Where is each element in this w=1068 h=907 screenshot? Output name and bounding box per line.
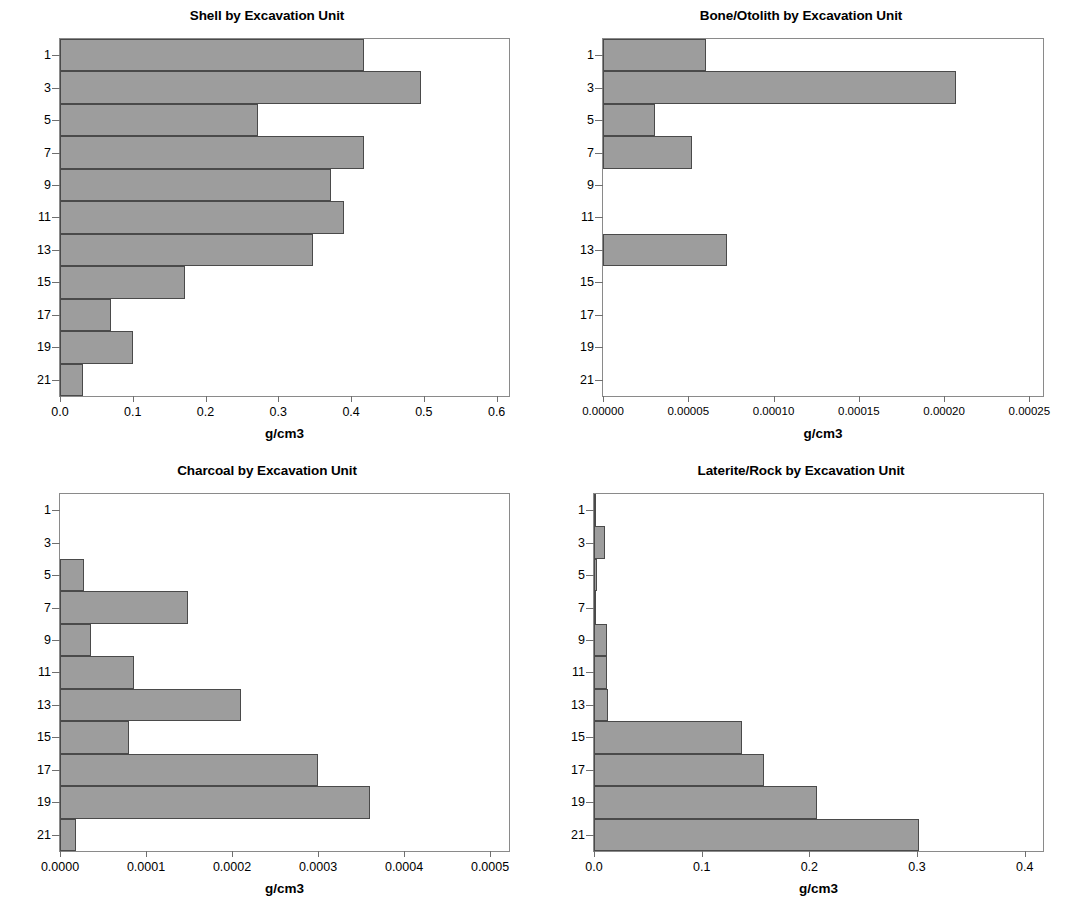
y-tick-mark [586,608,594,609]
y-tick-label: 7 [44,146,51,160]
x-tick-mark [774,396,775,402]
x-tick-label: 0.0 [51,405,68,419]
chart-panel-charcoal: Charcoal by Excavation UnitExcavation Un… [0,455,534,907]
bar [594,624,607,656]
x-tick-label: 0.00005 [667,405,709,417]
y-tick-label: 5 [44,113,51,127]
bar [60,754,318,786]
y-tick-mark [52,737,60,738]
y-tick-mark [595,380,603,381]
y-tick-label: 15 [37,730,51,744]
x-tick-label: 0.2 [197,405,214,419]
y-tick-mark [52,770,60,771]
y-tick-label: 5 [587,113,594,127]
bar [60,104,258,136]
x-tick-mark [490,851,491,857]
bar-slot: 7 [594,591,1043,623]
figure-grid: Shell by Excavation UnitExcavation Unit1… [0,0,1068,907]
bar-slot: 13 [603,234,1043,266]
bar [60,819,76,851]
bar-slot: 15 [60,266,509,298]
y-tick-label: 9 [578,633,585,647]
x-tick-mark [702,851,703,857]
bar-slot: 21 [603,364,1043,396]
x-tick-label: 0.0 [585,860,602,874]
bar [594,754,764,786]
bar-slot: 9 [594,624,1043,656]
bar-slot: 7 [603,136,1043,168]
y-tick-label: 21 [37,828,51,842]
y-tick-mark [52,380,60,381]
bar-slot: 15 [594,721,1043,753]
bar-slot: 21 [594,819,1043,851]
y-tick-label: 5 [578,568,585,582]
bar-slot: 3 [603,71,1043,103]
y-tick-mark [595,185,603,186]
bar [60,591,188,623]
y-tick-mark [52,705,60,706]
y-tick-mark [595,217,603,218]
y-tick-label: 19 [571,795,585,809]
x-tick-mark [351,396,352,402]
y-tick-mark [595,315,603,316]
y-tick-label: 13 [580,243,594,257]
bar-slot: 17 [60,299,509,331]
y-tick-mark [586,705,594,706]
y-tick-label: 21 [571,828,585,842]
bar-slot: 5 [60,559,509,591]
bar [60,559,84,591]
y-tick-label: 3 [44,536,51,550]
x-tick-mark [809,851,810,857]
x-tick-mark [232,851,233,857]
chart-title: Bone/Otolith by Excavation Unit [534,8,1068,23]
y-tick-label: 11 [38,665,51,679]
x-tick-mark [60,851,61,857]
x-tick-mark [1025,851,1026,857]
x-tick-mark [206,396,207,402]
x-tick-label: 0.4 [1016,860,1033,874]
bar-slot: 3 [60,526,509,558]
bar-series: 13579111315171921 [603,39,1043,396]
bar [594,591,596,623]
y-tick-label: 3 [578,536,585,550]
bar-slot: 1 [60,39,509,71]
bar-slot: 21 [60,364,509,396]
bar [60,786,370,818]
y-tick-label: 17 [37,308,51,322]
x-tick-label: 0.2 [801,860,818,874]
x-tick-label: 0.00015 [838,405,880,417]
y-tick-mark [52,55,60,56]
bar [60,39,364,71]
bar [60,71,421,103]
x-axis-title: g/cm3 [60,426,509,441]
bar-slot: 3 [594,526,1043,558]
plot-area-bone-otolith-by-excavation-unit: 135791113151719210.000000.000050.000100.… [602,38,1044,397]
bar [603,71,956,103]
x-tick-mark [944,396,945,402]
bar-slot: 15 [60,721,509,753]
y-tick-label: 9 [44,178,51,192]
bar-slot: 19 [60,786,509,818]
chart-panel-shell: Shell by Excavation UnitExcavation Unit1… [0,0,534,454]
bar-series: 13579111315171921 [60,494,509,851]
x-tick-mark [497,396,498,402]
bar [594,559,597,591]
y-tick-label: 1 [578,503,585,517]
y-tick-mark [52,672,60,673]
bar-slot: 7 [60,591,509,623]
bar [60,656,134,688]
x-tick-mark [404,851,405,857]
x-axis-title: g/cm3 [60,881,509,896]
x-tick-mark [594,851,595,857]
x-tick-label: 0.6 [488,405,505,419]
chart-title: Charcoal by Excavation Unit [0,463,534,478]
plot-area-shell-by-excavation-unit: 135791113151719210.00.10.20.30.40.50.6g/… [59,38,510,397]
y-tick-mark [52,217,60,218]
bar [60,266,185,298]
chart-panel-bone-otolith: Bone/Otolith by Excavation UnitExcavatio… [534,0,1068,454]
x-axis-title: g/cm3 [594,881,1043,896]
y-tick-label: 7 [578,601,585,615]
bar-slot: 1 [60,494,509,526]
x-tick-mark [603,396,604,402]
y-tick-label: 15 [37,275,51,289]
